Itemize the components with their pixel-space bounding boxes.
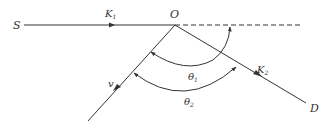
label-o: O: [170, 8, 179, 21]
v-arrow-icon: [113, 84, 121, 91]
theta1-arc: [151, 27, 230, 66]
label-theta2: θ2: [184, 96, 194, 108]
label-k1: K1: [104, 8, 116, 20]
label-v: v: [108, 78, 114, 89]
label-k2: K2: [256, 64, 268, 76]
label-s: S: [13, 19, 21, 32]
theta2-arc: [134, 67, 236, 91]
label-d: D: [309, 102, 319, 115]
k1-arrow-icon: [109, 23, 115, 28]
diagram-canvas: S O D K1 K2 v θ1 θ2: [0, 0, 333, 126]
label-theta1: θ1: [188, 71, 198, 83]
velocity-line: [88, 25, 175, 121]
scattered-line: [175, 25, 306, 103]
